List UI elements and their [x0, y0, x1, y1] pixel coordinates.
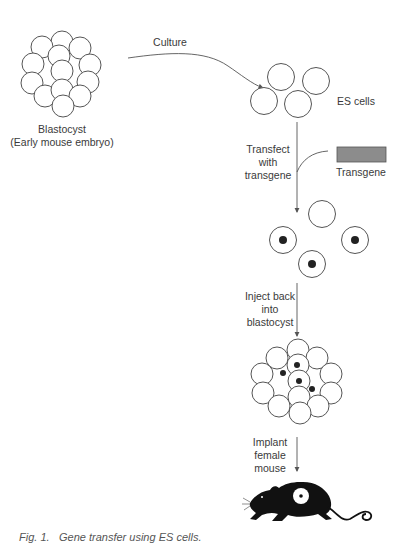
inject-label-2: into — [262, 303, 279, 315]
culture-arrow — [128, 54, 263, 88]
transfected-cells — [270, 201, 369, 278]
blastocyst-label: Blastocyst — [38, 123, 86, 135]
transfect-label-2: with — [258, 156, 278, 168]
inject-label-1: Inject back — [245, 290, 296, 302]
figure-caption-text: Gene transfer using ES cells. — [59, 531, 201, 543]
transfect-label-1: Transfect — [246, 143, 289, 155]
implant-label-3: mouse — [254, 462, 286, 474]
transgene-label: Transgene — [336, 166, 386, 178]
es-cells-label: ES cells — [337, 95, 375, 107]
implant-label-1: Implant — [253, 436, 288, 448]
blastocyst-cluster — [21, 31, 101, 117]
inject-label-3: blastocyst — [247, 316, 294, 328]
transgene-entry-curve — [297, 151, 328, 172]
culture-label: Culture — [153, 36, 187, 48]
injected-blastocyst — [251, 339, 342, 424]
transgene-bar — [337, 147, 386, 162]
transfect-label-3: transgene — [245, 169, 292, 181]
es-cells — [251, 64, 330, 118]
implant-label-2: female — [254, 449, 286, 461]
figure-caption-number: Fig. 1. — [19, 531, 50, 543]
mouse-icon — [242, 482, 371, 521]
blastocyst-sublabel: (Early mouse embryo) — [10, 136, 113, 148]
